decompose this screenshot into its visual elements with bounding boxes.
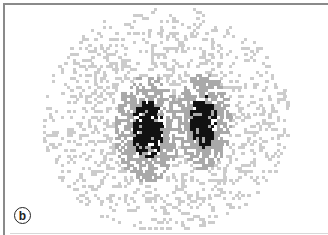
scintigraphy-scan-image bbox=[0, 0, 328, 235]
panel-label-b: b bbox=[14, 207, 31, 224]
panel-label-text: b bbox=[19, 210, 26, 222]
